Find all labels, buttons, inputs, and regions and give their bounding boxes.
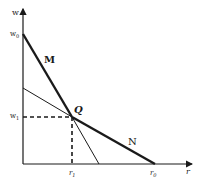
tick-label-r1: r1	[69, 169, 76, 178]
tick-label-r0: r0	[150, 169, 157, 178]
point-label-q: Q	[74, 104, 83, 115]
tick-label-w0: w0	[10, 30, 19, 39]
x-axis-label: r	[186, 167, 191, 176]
curve-n	[72, 117, 155, 164]
tick-label-w1: w1	[10, 112, 19, 121]
y-axis-label: w	[12, 8, 19, 17]
curve-label-m: M	[44, 54, 55, 65]
curve-m	[23, 34, 72, 117]
diagram-canvas: w r w0 w1 r1 r0 M N Q	[0, 0, 201, 179]
curve-label-n: N	[128, 136, 137, 147]
